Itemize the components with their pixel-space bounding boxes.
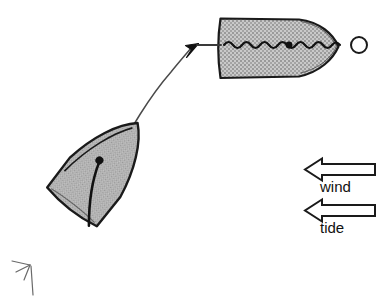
racing-mark-buoy-icon xyxy=(351,37,367,53)
legend-tide: tide xyxy=(305,200,375,237)
diagram-canvas: wind tide xyxy=(0,0,379,297)
hull-lower xyxy=(45,103,163,229)
boat-lower-left xyxy=(44,103,163,230)
mast-dot-upper xyxy=(286,42,293,49)
boat-upper-right xyxy=(218,19,340,79)
legend-wind: wind xyxy=(305,159,375,196)
sailing-diagram: wind tide xyxy=(0,0,379,297)
stern-wake-lines xyxy=(12,261,33,295)
wind-label: wind xyxy=(319,178,351,195)
tide-label: tide xyxy=(320,219,344,236)
